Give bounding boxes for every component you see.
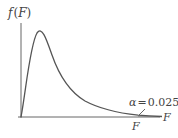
alpha-label: α=0.025 (129, 96, 178, 109)
critical-value-label: F (131, 120, 140, 133)
f-distribution-diagram: f(F) α=0.025 F F (0, 0, 178, 138)
y-axis-label: f(F) (7, 6, 31, 20)
x-axis-label: F (162, 111, 171, 124)
alpha-leader-line (139, 109, 145, 115)
